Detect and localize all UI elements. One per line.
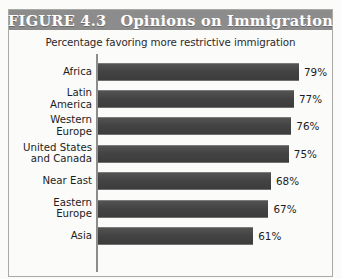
figure-title-bar: FIGURE 4.3Opinions on Immigration (9, 10, 332, 30)
category-label: Western Europe (0, 115, 92, 138)
category-label: Asia (0, 230, 92, 242)
bar (98, 63, 299, 80)
bar-value-label: 68% (276, 175, 299, 187)
chart-row: Eastern Europe67% (9, 195, 332, 222)
bar-value-label: 76% (296, 120, 319, 132)
chart-row: Western Europe76% (9, 113, 332, 140)
bar-value-label: 67% (273, 203, 296, 215)
bar (98, 228, 253, 245)
category-label: Africa (0, 66, 92, 78)
figure-number: FIGURE 4.3 (8, 12, 106, 29)
bar (98, 200, 268, 217)
chart-row: Near East68% (9, 168, 332, 195)
bar-value-label: 75% (294, 148, 317, 160)
bar-value-label: 61% (258, 230, 281, 242)
figure-container: FIGURE 4.3Opinions on Immigration Percen… (0, 0, 341, 279)
category-label: Latin America (0, 87, 92, 110)
chart-plot-area: Africa79%Latin America77%Western Europe7… (9, 54, 332, 272)
figure-title-text: Opinions on Immigration (121, 12, 333, 29)
category-label: Eastern Europe (0, 197, 92, 220)
chart-subtitle: Percentage favoring more restrictive imm… (0, 36, 341, 48)
chart-row: Asia61% (9, 222, 332, 249)
chart-row: Latin America77% (9, 85, 332, 112)
bar (98, 118, 291, 135)
bar-value-label: 79% (304, 66, 327, 78)
category-label: Near East (0, 175, 92, 187)
bar (98, 173, 271, 190)
chart-row: United States and Canada75% (9, 140, 332, 167)
figure-title: FIGURE 4.3Opinions on Immigration (8, 12, 333, 29)
bar (98, 91, 294, 108)
bar (98, 145, 289, 162)
chart-row: Africa79% (9, 58, 332, 85)
category-label: United States and Canada (0, 142, 92, 165)
bar-value-label: 77% (299, 93, 322, 105)
